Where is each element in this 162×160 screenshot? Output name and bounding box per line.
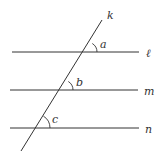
label-angle-c: c: [52, 113, 58, 126]
label-l: ℓ: [146, 47, 151, 60]
angle-arc-a: [92, 44, 97, 53]
label-angle-a: a: [100, 38, 107, 51]
label-m: m: [144, 85, 154, 98]
transversal-k: [21, 20, 102, 151]
label-angle-b: b: [76, 76, 83, 89]
angle-arc-b: [68, 82, 73, 91]
label-k: k: [107, 9, 114, 22]
angle-arc-c: [43, 116, 50, 128]
parallel-lines-diagram: k ℓ m n a b c: [0, 0, 162, 160]
label-n: n: [145, 123, 152, 136]
